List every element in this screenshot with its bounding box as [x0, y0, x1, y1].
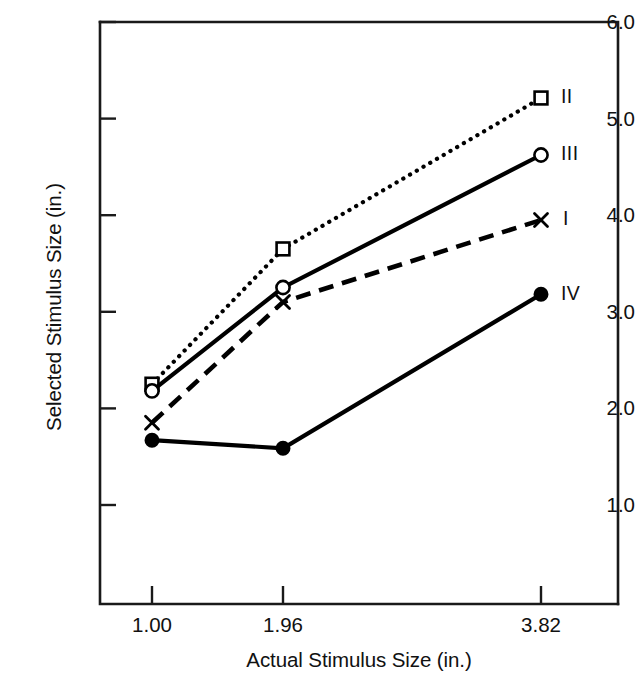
y-tick-label-2-0: 2.0 [571, 396, 635, 420]
series-III-line [152, 155, 541, 391]
series-II-point-2 [277, 243, 290, 256]
x-axis-title: Actual Stimulus Size (in.) [100, 648, 618, 672]
series-label-III: III [561, 142, 578, 165]
y-tick-label-6-0: 6.0 [571, 10, 635, 34]
axis-spines [100, 22, 618, 604]
series-I [146, 214, 548, 430]
series-II-point-3 [535, 92, 548, 105]
x-tick-label-1-96: 1.96 [238, 613, 328, 637]
x-tick-label-1-00: 1.00 [107, 613, 197, 637]
x-tick-label-3-82: 3.82 [496, 613, 586, 637]
y-tick-label-1-0: 1.0 [571, 493, 635, 517]
series-III-point-2 [276, 281, 289, 294]
series-I-point-1 [146, 416, 159, 429]
y-tick-label-4-0: 4.0 [571, 203, 635, 227]
series-III-point-3 [534, 148, 547, 161]
series-III-point-1 [145, 384, 158, 397]
y-axis-title: Selected Stimulus Size (in.) [42, 97, 66, 517]
series-II-line [152, 98, 541, 384]
chart-plot-area [0, 0, 635, 685]
x-axis-ticks [152, 586, 541, 604]
figure: 6.0 5.0 4.0 3.0 2.0 1.0 1.00 1.96 3.82 S… [0, 0, 635, 685]
series-IV-point-2 [277, 442, 290, 455]
y-axis-ticks [100, 22, 116, 505]
y-tick-label-5-0: 5.0 [571, 107, 635, 131]
series-label-IV: IV [561, 282, 580, 305]
series-IV-point-3 [535, 288, 548, 301]
series-III [145, 148, 547, 397]
series-label-II: II [561, 85, 573, 108]
y-tick-label-3-0: 3.0 [571, 300, 635, 324]
series-label-I: I [563, 207, 569, 230]
series-IV-point-1 [146, 434, 159, 447]
